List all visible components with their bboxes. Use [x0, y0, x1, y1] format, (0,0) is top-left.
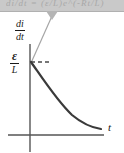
intercept-value-label: ε L: [10, 50, 19, 75]
leader-line: [31, 16, 52, 63]
y-axis-label: di dt: [15, 19, 25, 42]
y-axis-label-denominator: dt: [15, 31, 25, 42]
intercept-denominator-l: L: [10, 64, 19, 75]
inductor-di-dt-decay-figure: di/dt = (ε/L)e^(-Rt/L) di dt ε L t: [0, 0, 124, 153]
y-axis-label-numerator: di: [15, 19, 25, 31]
x-axis-label: t: [108, 122, 111, 133]
decay-curve: [31, 62, 101, 129]
leader-arrowhead-icon: [46, 11, 58, 20]
intercept-numerator-epsilon: ε: [10, 50, 19, 64]
